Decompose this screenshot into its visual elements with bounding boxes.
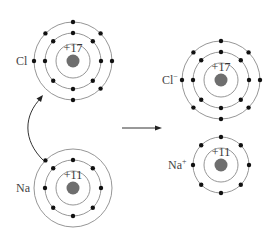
electron-transfer-arrow-icon bbox=[28, 95, 44, 161]
na-ion-symbol: Na bbox=[168, 158, 183, 172]
cl-ion: +17 Cl− bbox=[162, 39, 262, 121]
electron-dot bbox=[246, 105, 250, 109]
cl-ion-nucleus bbox=[215, 74, 228, 87]
electron-dot bbox=[246, 50, 250, 54]
electron-dot bbox=[51, 166, 55, 170]
electron-dot bbox=[91, 39, 95, 43]
electron-dot bbox=[191, 105, 195, 109]
electron-dot bbox=[180, 78, 184, 82]
electron-dot bbox=[219, 117, 223, 121]
electron-dot bbox=[239, 58, 243, 62]
electron-dot bbox=[239, 98, 243, 102]
na-nucleus bbox=[67, 182, 80, 195]
electron-dot bbox=[219, 135, 223, 139]
electron-dot bbox=[110, 59, 114, 63]
reaction-arrow-icon bbox=[122, 126, 162, 131]
electron-dot bbox=[191, 50, 195, 54]
electron-dot bbox=[91, 206, 95, 210]
electron-dot bbox=[43, 186, 47, 190]
cl-ion-label: Cl− bbox=[162, 72, 178, 87]
electron-dot bbox=[71, 158, 75, 162]
electron-dot bbox=[191, 163, 195, 167]
electron-dot bbox=[199, 58, 203, 62]
electron-dot bbox=[219, 50, 223, 54]
electron-dot bbox=[199, 98, 203, 102]
cl-nuclear-charge: +17 bbox=[64, 41, 83, 55]
cl-atom: +17 Cl bbox=[16, 20, 114, 102]
electron-dot bbox=[43, 31, 47, 35]
electron-dot bbox=[32, 59, 36, 63]
electron-dot bbox=[219, 39, 223, 43]
electron-dot bbox=[239, 143, 243, 147]
na-atom: +11 Na bbox=[16, 149, 112, 227]
electron-dot bbox=[43, 59, 47, 63]
electron-dot bbox=[247, 163, 251, 167]
cl-ion-charge-sign: − bbox=[173, 72, 178, 81]
electron-dot bbox=[199, 143, 203, 147]
na-ion-charge-sign: + bbox=[182, 157, 187, 166]
electron-dot bbox=[219, 191, 223, 195]
na-ion-nucleus bbox=[215, 159, 228, 172]
cl-ion-nuclear-charge: +17 bbox=[212, 60, 231, 74]
na-ion-nuclear-charge: +11 bbox=[212, 145, 230, 159]
electron-dot bbox=[71, 214, 75, 218]
electron-dot bbox=[98, 86, 102, 90]
cl-ion-symbol: Cl bbox=[162, 73, 174, 87]
electron-dot bbox=[219, 106, 223, 110]
electron-dot bbox=[71, 87, 75, 91]
electron-dot bbox=[247, 78, 251, 82]
electron-dot bbox=[199, 183, 203, 187]
na-nuclear-charge: +11 bbox=[64, 168, 82, 182]
electron-dot bbox=[91, 166, 95, 170]
electron-dot bbox=[71, 20, 75, 24]
electron-dot bbox=[51, 206, 55, 210]
electron-dot bbox=[51, 39, 55, 43]
electron-dot bbox=[98, 31, 102, 35]
electron-dot bbox=[91, 79, 95, 83]
electron-transfer-diagram: +17 Cl +11 Na +17 Cl− +11 Na+ bbox=[0, 0, 275, 240]
electron-dot bbox=[258, 78, 262, 82]
na-atom-label: Na bbox=[16, 181, 31, 195]
electron-dot bbox=[99, 59, 103, 63]
cl-nucleus bbox=[67, 55, 80, 68]
electron-dot bbox=[71, 98, 75, 102]
na-ion: +11 Na+ bbox=[168, 135, 251, 195]
na-ion-label: Na+ bbox=[168, 157, 187, 172]
electron-dot bbox=[239, 183, 243, 187]
electron-dot bbox=[99, 186, 103, 190]
electron-dot bbox=[51, 79, 55, 83]
electron-dot bbox=[71, 31, 75, 35]
electron-dot bbox=[191, 78, 195, 82]
cl-atom-label: Cl bbox=[16, 54, 28, 68]
